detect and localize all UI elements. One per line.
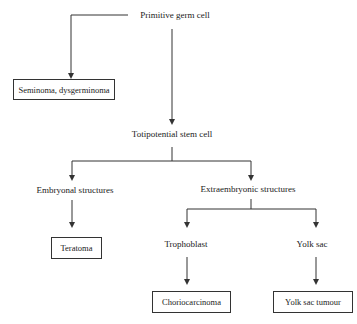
connector-lines [0, 0, 357, 324]
node-yolk-sac-tumour-box: Yolk sac tumour [273, 291, 353, 313]
germ-cell-tumour-diagram: Primitive germ cell Seminoma, dysgermino… [0, 0, 357, 324]
node-seminoma-box: Seminoma, dysgerminoma [13, 79, 115, 100]
node-totipotential-stem-cell: Totipotential stem cell [132, 129, 212, 139]
node-teratoma-box: Teratoma [51, 237, 102, 259]
node-choriocarcinoma-box: Choriocarcinoma [152, 291, 231, 313]
node-primitive-germ-cell: Primitive germ cell [140, 10, 209, 20]
node-extraembryonic-structures: Extraembryonic structures [200, 184, 295, 194]
node-yolk-sac: Yolk sac [297, 239, 328, 249]
node-trophoblast: Trophoblast [164, 239, 207, 249]
node-embryonal-structures: Embryonal structures [36, 185, 113, 195]
